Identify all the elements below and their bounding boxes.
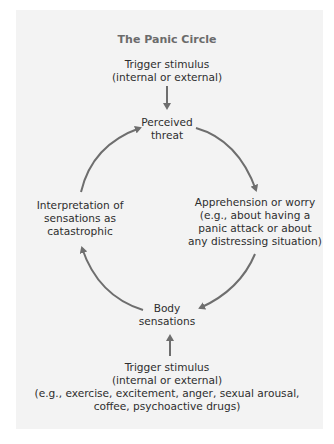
arrow-apprehension-to-body — [200, 254, 255, 308]
arrow-threat-to-apprehension — [196, 128, 256, 190]
arrow-interpretation-to-threat — [81, 128, 140, 192]
arrows-layer — [0, 0, 334, 444]
arrow-body-to-interpretation — [82, 248, 143, 310]
